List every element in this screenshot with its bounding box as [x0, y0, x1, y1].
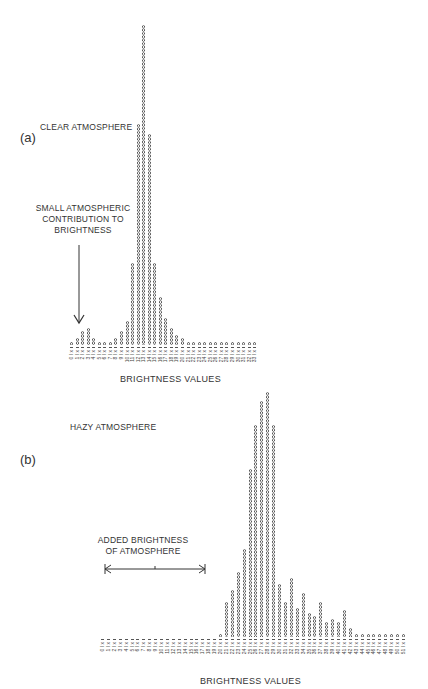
- histogram-bar: [319, 602, 322, 637]
- axis-tick: [231, 639, 234, 640]
- axis-tick: [125, 639, 128, 640]
- panel-b-xlabel: BRIGHTNESS VALUES: [200, 676, 301, 686]
- axis-tick: [384, 639, 387, 640]
- histogram-bar: [355, 634, 358, 637]
- axis-tick: [209, 347, 212, 348]
- axis-tick: [213, 639, 216, 640]
- panel-a-label: (a): [20, 130, 36, 145]
- histogram-bar: [349, 628, 352, 637]
- axis-tick: [266, 639, 269, 640]
- histogram-bar: [225, 602, 228, 637]
- axis-tick: [390, 639, 393, 640]
- axis-tick: [120, 347, 123, 348]
- histogram-bar: [103, 342, 106, 345]
- axis-tick: [142, 347, 145, 348]
- axis-tick: [249, 639, 252, 640]
- histogram-bar: [225, 342, 228, 345]
- panel-a-xlabel: BRIGHTNESS VALUES: [120, 374, 221, 384]
- histogram-bar: [372, 634, 375, 637]
- histogram-bar: [248, 342, 251, 345]
- histogram-bar: [243, 549, 246, 638]
- axis-tick: [187, 347, 190, 348]
- histogram-bar: [242, 342, 245, 345]
- axis-tick: [113, 639, 116, 640]
- histogram-bar: [308, 613, 311, 637]
- x-tick-label: 33 I x: [295, 642, 300, 654]
- x-tick-label: 4 I x: [124, 642, 129, 651]
- axis-tick: [172, 639, 175, 640]
- histogram-bar: [153, 263, 156, 345]
- axis-tick: [192, 347, 195, 348]
- axis-tick: [237, 639, 240, 640]
- axis-tick: [87, 347, 90, 348]
- histogram-bar: [390, 634, 393, 637]
- axis-tick: [237, 347, 240, 348]
- axis-tick: [225, 347, 228, 348]
- axis-tick: [198, 347, 201, 348]
- histogram-bar: [209, 342, 212, 345]
- histogram-bar: [266, 392, 269, 637]
- annotation-line: SMALL ATMOSPHERIC: [28, 203, 138, 214]
- axis-tick: [181, 347, 184, 348]
- axis-tick: [190, 639, 193, 640]
- histogram-bar: [254, 425, 257, 637]
- axis-tick: [136, 639, 139, 640]
- histogram-bar: [120, 331, 123, 345]
- x-tick-label: 43 I x: [354, 642, 359, 654]
- axis-tick: [131, 639, 134, 640]
- histogram-bar: [175, 335, 178, 345]
- histogram-bar: [290, 578, 293, 637]
- histogram-bar: [331, 619, 334, 637]
- axis-tick: [214, 347, 217, 348]
- annotation-line: BRIGHTNESS: [28, 225, 138, 236]
- axis-tick: [272, 639, 275, 640]
- axis-tick: [296, 639, 299, 640]
- axis-tick: [337, 639, 340, 640]
- histogram-bar: [361, 634, 364, 637]
- axis-tick: [131, 347, 134, 348]
- x-tick-label: 13 I x: [177, 642, 182, 654]
- axis-tick: [402, 639, 405, 640]
- axis-tick: [148, 639, 151, 640]
- axis-tick: [154, 639, 157, 640]
- histogram-bar: [237, 572, 240, 637]
- axis-tick: [195, 639, 198, 640]
- panel-a-title: CLEAR ATMOSPHERE: [40, 122, 132, 133]
- axis-tick: [343, 639, 346, 640]
- x-tick-label: 3 I x: [118, 642, 123, 651]
- axis-tick: [220, 347, 223, 348]
- histogram-bar: [325, 622, 328, 637]
- histogram-bar: [131, 263, 134, 345]
- axis-tick: [159, 347, 162, 348]
- axis-tick: [98, 347, 101, 348]
- x-tick-label: 24 I x: [242, 642, 247, 654]
- axis-tick: [114, 347, 117, 348]
- histogram-bar: [367, 634, 370, 637]
- axis-tick: [219, 639, 222, 640]
- axis-tick: [355, 639, 358, 640]
- histogram-bar: [181, 338, 184, 345]
- histogram-bar: [343, 610, 346, 637]
- panel-b-label: (b): [20, 452, 36, 467]
- axis-tick: [260, 639, 263, 640]
- histogram-bar: [249, 469, 252, 637]
- axis-tick: [290, 639, 293, 640]
- down-arrow-icon: [72, 245, 86, 327]
- histogram-bar: [187, 342, 190, 345]
- axis-tick: [175, 347, 178, 348]
- axis-tick: [70, 347, 73, 348]
- axis-tick: [153, 347, 156, 348]
- histogram-bar: [87, 328, 90, 345]
- histogram-bar: [378, 634, 381, 637]
- axis-tick: [92, 347, 95, 348]
- axis-tick: [331, 639, 334, 640]
- axis-tick: [284, 639, 287, 640]
- annotation-line: OF ATMOSPHERE: [88, 546, 198, 557]
- histogram-bar: [231, 342, 234, 345]
- x-tick-label: 44 I x: [360, 642, 365, 654]
- histogram-bar: [142, 25, 145, 345]
- axis-tick: [201, 639, 204, 640]
- axis-tick: [242, 347, 245, 348]
- x-tick-label: 34 I x: [301, 642, 306, 654]
- axis-tick: [325, 639, 328, 640]
